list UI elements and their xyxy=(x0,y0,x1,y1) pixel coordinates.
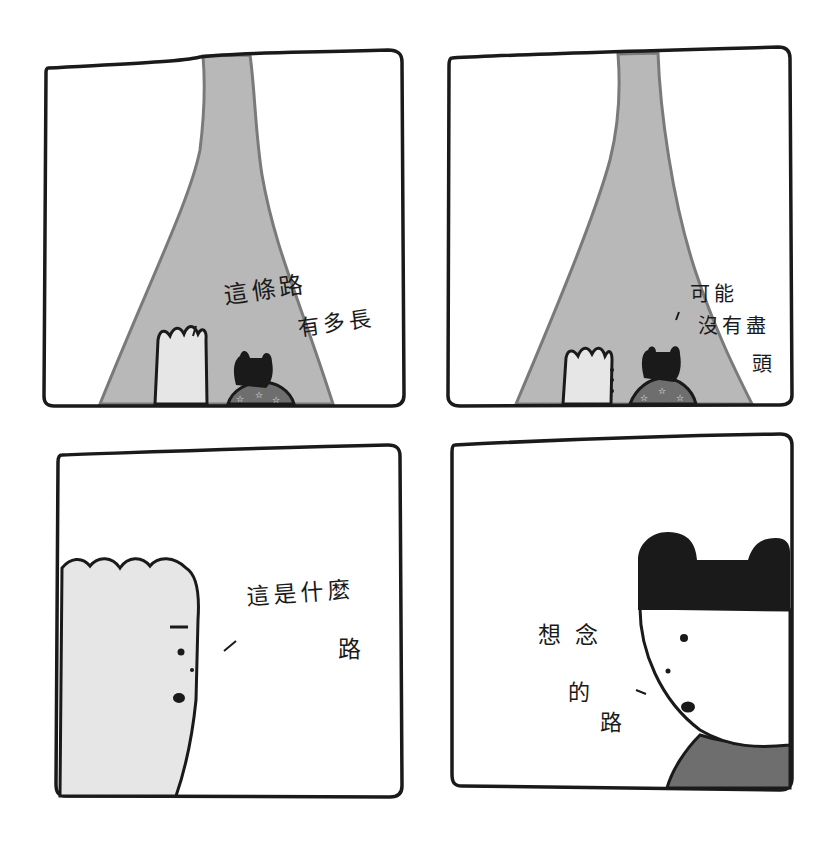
white-character-head xyxy=(155,327,207,405)
character-mouth xyxy=(681,702,695,713)
panel-4-caption-line-2: 的 xyxy=(568,682,594,704)
character-cheek-mark xyxy=(666,669,671,674)
panel-2: ☆ ☆ ☆ xyxy=(448,47,792,406)
character-mouth xyxy=(173,693,185,703)
star-icon: ☆ xyxy=(236,394,244,404)
panel-1: ☆ ☆ ☆ xyxy=(44,50,404,406)
white-character-mark xyxy=(610,378,614,382)
panel-3 xyxy=(56,445,402,797)
star-icon: ☆ xyxy=(272,395,280,405)
speech-tick xyxy=(224,641,236,651)
white-character-head xyxy=(563,348,612,404)
panel-2-caption-line-3: 頭 xyxy=(752,354,776,374)
panel-4-caption-line-1: 想念 xyxy=(538,624,612,647)
star-icon: ☆ xyxy=(255,390,263,400)
panel-3-caption-line-2: 路 xyxy=(338,638,365,661)
panel-4 xyxy=(452,434,792,790)
white-character-mark xyxy=(610,389,614,393)
character-eye xyxy=(178,649,185,656)
star-icon: ☆ xyxy=(658,386,666,396)
speech-tick xyxy=(636,690,646,694)
road-shape xyxy=(100,55,333,404)
star-icon: ☆ xyxy=(640,393,648,403)
star-icon: ☆ xyxy=(676,393,684,403)
character-face xyxy=(640,608,790,746)
character-hair xyxy=(638,532,790,610)
panel-2-caption-line-1: 可能 xyxy=(690,284,738,304)
character-cheek-mark xyxy=(190,668,194,672)
panel-2-caption-line-2: 沒有盡 xyxy=(698,316,770,336)
comic-artwork: ☆ ☆ ☆ ☆ ☆ ☆ xyxy=(0,0,828,848)
road-shape xyxy=(516,53,752,404)
white-character-mark xyxy=(610,368,614,372)
comic-page: ☆ ☆ ☆ ☆ ☆ ☆ xyxy=(0,0,828,848)
white-character-head xyxy=(60,559,199,796)
panel-4-caption-line-3: 路 xyxy=(600,712,626,734)
character-eye xyxy=(680,634,688,642)
